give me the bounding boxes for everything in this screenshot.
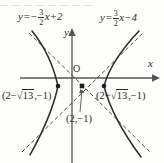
x-axis-arrow-icon <box>152 74 160 81</box>
asymptote-right-numerator: 3 <box>113 10 119 18</box>
vertex-left-close: ,−1) <box>34 90 51 101</box>
point-vertex-left <box>56 84 61 89</box>
asymptote-left-prefix: y=− <box>18 10 38 22</box>
sqrt-icon: √13 <box>17 89 34 102</box>
leader-line-group <box>79 89 84 112</box>
hyperbola-figure: — — — — — — — — <box>0 0 164 163</box>
vertex-right-label: (2+√13,−1) <box>96 89 145 102</box>
center-leader-line <box>80 90 82 112</box>
point-vertex-right <box>102 84 107 89</box>
x-axis-label: x <box>148 58 153 69</box>
asymptote-right-denominator: 2 <box>113 20 119 28</box>
vertex-left-label: (2−√13,−1) <box>2 89 51 102</box>
center-point-label: (2,−1) <box>66 114 92 125</box>
asymptote-left-fraction: 3 2 <box>38 9 44 27</box>
asymptote-left-numerator: 3 <box>38 9 44 17</box>
radical-tick: √ <box>17 91 23 102</box>
sqrt-icon: √13 <box>111 89 128 102</box>
asymptote-left-equation-label: y=− 3 2 x+2 <box>18 9 63 27</box>
vertex-right-open: (2+ <box>96 90 111 101</box>
vertex-right-close: ,−1) <box>128 90 145 101</box>
vertex-left-open: (2− <box>2 90 17 101</box>
y-axis-arrow-icon <box>68 28 75 36</box>
asymptote-right-fraction: 3 2 <box>113 10 119 28</box>
point-group <box>56 84 107 89</box>
asymptote-left-denominator: 2 <box>38 19 44 27</box>
asymptote-right-prefix: y= <box>100 11 112 23</box>
point-center <box>80 84 85 89</box>
asymptote-right-suffix: x−4 <box>119 11 137 23</box>
vertex-right-radicand: 13 <box>116 89 128 101</box>
radical-tick: √ <box>111 91 117 102</box>
y-axis-label: y <box>64 27 69 38</box>
asymptote-left-suffix: x+2 <box>45 10 63 22</box>
origin-label: O <box>73 64 80 74</box>
vertex-left-radicand: 13 <box>22 89 34 101</box>
asymptote-right-equation-label: y= 3 2 x−4 <box>100 10 137 28</box>
